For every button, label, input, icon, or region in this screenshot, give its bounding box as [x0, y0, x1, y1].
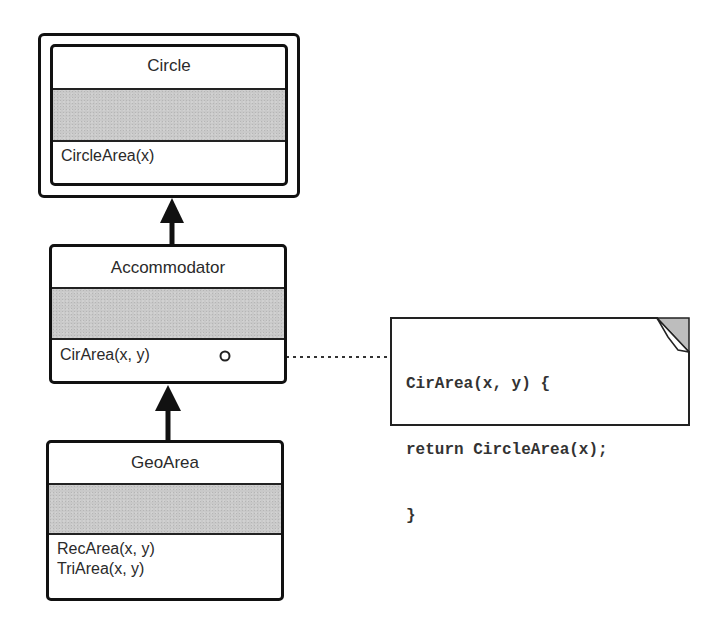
note-code: CirArea(x, y) { return CircleArea(x); }	[406, 329, 608, 571]
class-name: GeoArea	[49, 453, 281, 473]
operations-compartment: RecArea(x, y) TriArea(x, y)	[49, 539, 281, 579]
note-line: }	[406, 505, 608, 527]
note-line: CirArea(x, y) {	[406, 373, 608, 395]
code-note[interactable]: CirArea(x, y) { return CircleArea(x); }	[390, 317, 690, 426]
operation: TriArea(x, y)	[57, 559, 281, 579]
geoarea-class[interactable]: GeoArea RecArea(x, y) TriArea(x, y)	[46, 440, 284, 601]
operation: RecArea(x, y)	[57, 539, 281, 559]
attributes-compartment	[49, 483, 281, 535]
note-anchor-circle-icon	[221, 352, 230, 361]
note-line: return CircleArea(x);	[406, 439, 608, 461]
